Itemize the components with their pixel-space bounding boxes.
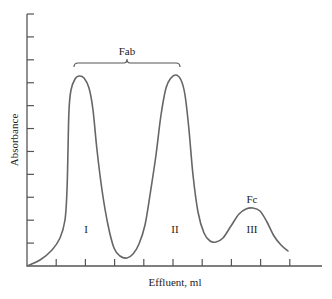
fc-label: Fc bbox=[247, 193, 258, 205]
x-axis-ticks bbox=[56, 259, 290, 266]
peak-label-i: I bbox=[84, 223, 88, 235]
peak-label-ii: II bbox=[171, 223, 179, 235]
peak-label-iii: III bbox=[247, 223, 258, 235]
y-axis-ticks bbox=[27, 14, 34, 243]
fab-brace bbox=[74, 59, 180, 67]
y-axis-label: Absorbance bbox=[8, 114, 20, 167]
chromatogram-chart: Fab I II III Fc Effluent, ml Absorbance bbox=[0, 0, 332, 299]
absorbance-curve bbox=[27, 75, 288, 266]
fab-label: Fab bbox=[119, 45, 136, 57]
x-axis-label: Effluent, ml bbox=[149, 276, 202, 288]
